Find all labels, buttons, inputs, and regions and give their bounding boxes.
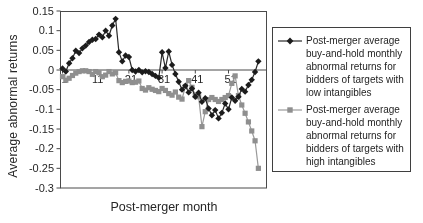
series-low-intangibles: [59, 16, 261, 122]
svg-text:-0.3: -0.3: [35, 182, 54, 194]
legend: Post-merger average buy-and-hold monthly…: [272, 27, 411, 172]
svg-text:0.05: 0.05: [33, 44, 54, 56]
svg-text:0.15: 0.15: [33, 5, 54, 17]
legend-item-low-intangibles: Post-merger average buy-and-hold monthly…: [277, 34, 406, 99]
square-marker-icon: [277, 105, 303, 115]
plot-area: 0.150.10.050-0.05-0.1-0.15-0.2-0.25-0.31…: [60, 11, 268, 189]
svg-text:-0.2: -0.2: [35, 142, 54, 154]
chart-figure: Average abnormal returns 0.150.10.050-0.…: [0, 0, 423, 223]
x-axis-title: Post-merger month: [60, 200, 268, 214]
svg-text:-0.15: -0.15: [29, 123, 54, 135]
svg-text:-0.05: -0.05: [29, 83, 54, 95]
y-axis-ticks: 0.150.10.050-0.05-0.1-0.15-0.2-0.25-0.3: [29, 5, 61, 194]
diamond-marker-icon: [277, 36, 303, 46]
svg-text:-0.25: -0.25: [29, 162, 54, 174]
svg-text:-0.1: -0.1: [35, 103, 54, 115]
legend-item-label: Post-merger average buy-and-hold monthly…: [303, 34, 406, 99]
svg-text:41: 41: [191, 73, 203, 85]
legend-item-high-intangibles: Post-merger average buy-and-hold monthly…: [277, 103, 406, 168]
legend-item-label: Post-merger average buy-and-hold monthly…: [303, 103, 406, 168]
svg-text:0: 0: [48, 64, 54, 76]
svg-text:0.1: 0.1: [39, 24, 54, 36]
y-axis-title: Average abnormal returns: [6, 34, 20, 177]
